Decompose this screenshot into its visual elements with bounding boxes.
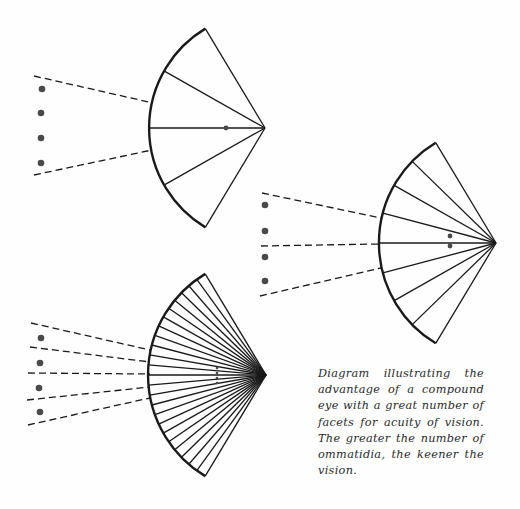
facet-line bbox=[205, 128, 265, 227]
object-dot bbox=[36, 385, 43, 392]
light-ray-dashed bbox=[31, 323, 150, 350]
light-ray-dashed bbox=[260, 268, 381, 296]
light-ray-dashed bbox=[261, 244, 380, 246]
light-ray-dashed bbox=[30, 347, 150, 362]
image-dot bbox=[216, 382, 219, 385]
object-dot bbox=[37, 409, 44, 416]
fan-medium-facets bbox=[260, 143, 496, 344]
image-dot bbox=[216, 367, 219, 370]
object-dot bbox=[39, 86, 46, 93]
caption-line: eye with a great number of bbox=[318, 398, 484, 414]
facet-line bbox=[205, 29, 265, 128]
fan-many-facets bbox=[27, 274, 266, 476]
object-dot bbox=[38, 110, 45, 117]
caption-line: facets for acuity of vision. bbox=[318, 415, 484, 431]
image-dot bbox=[216, 372, 219, 375]
caption-line: advantage of a compound bbox=[318, 382, 484, 398]
light-ray-dashed bbox=[28, 398, 150, 425]
caption-line: ommatidia, the keener the bbox=[318, 447, 484, 463]
facet-line bbox=[164, 71, 265, 128]
light-ray-dashed bbox=[262, 193, 381, 218]
light-ray-dashed bbox=[34, 150, 152, 175]
facet-line bbox=[164, 128, 265, 185]
object-dot bbox=[262, 202, 269, 209]
image-dot bbox=[216, 377, 219, 380]
image-dot bbox=[224, 126, 229, 131]
caption-line: Diagram illustrating the bbox=[318, 366, 484, 382]
light-ray-dashed bbox=[27, 387, 150, 400]
object-dot bbox=[37, 360, 44, 367]
compound-eye-diagram: Diagram illustrating the advantage of a … bbox=[0, 0, 520, 509]
facet-line bbox=[383, 243, 496, 273]
light-ray-dashed bbox=[28, 373, 150, 374]
fan-few-facets bbox=[34, 29, 265, 228]
image-dot bbox=[448, 234, 453, 239]
object-dot bbox=[38, 335, 45, 342]
figure-caption: Diagram illustrating the advantage of a … bbox=[318, 366, 484, 479]
object-dot bbox=[38, 135, 45, 142]
object-dot bbox=[262, 228, 269, 235]
light-ray-dashed bbox=[34, 76, 153, 103]
facet-line bbox=[383, 213, 496, 243]
object-dot bbox=[38, 160, 45, 167]
image-dot bbox=[448, 244, 453, 249]
object-dot bbox=[262, 254, 269, 261]
caption-line: vision. bbox=[318, 463, 484, 479]
object-dot bbox=[262, 278, 269, 285]
caption-line: The greater the number of bbox=[318, 431, 484, 447]
